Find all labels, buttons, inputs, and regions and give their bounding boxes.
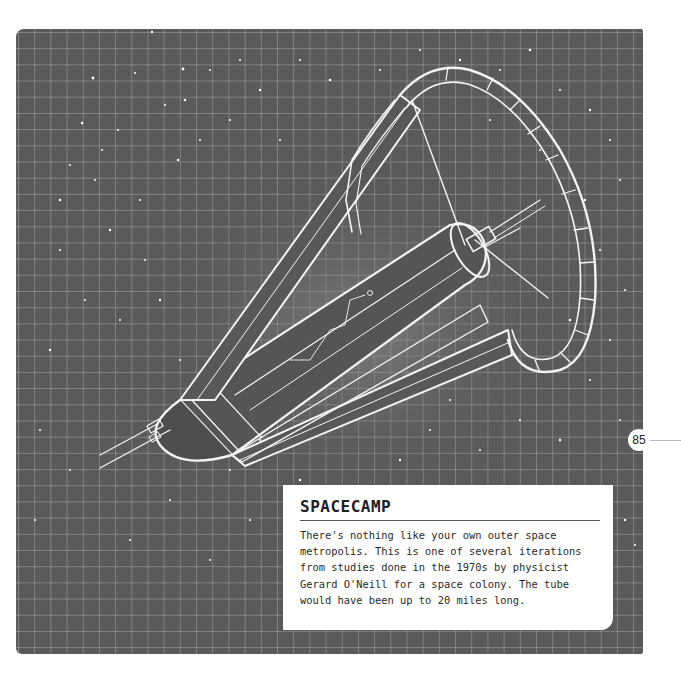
caption-title: SPACECAMP [300,497,600,521]
page-number-rule [650,440,681,441]
illustration-panel: SPACECAMP There's nothing like your own … [16,29,643,654]
caption-box: SPACECAMP There's nothing like your own … [283,485,613,630]
page-number: 85 [628,429,650,451]
caption-body: There's nothing like your own outer spac… [300,527,599,608]
